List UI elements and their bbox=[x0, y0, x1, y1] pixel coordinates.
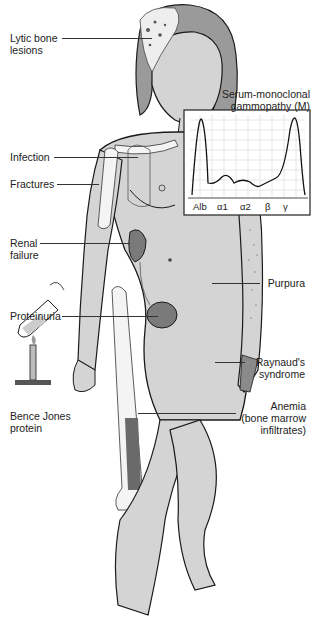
label-raynauds-syndrome: Raynaud's syndrome bbox=[230, 356, 305, 380]
axis-label-alb: Alb bbox=[193, 201, 207, 213]
myeloma-diagram: Serum-monoclonal gammopathy (M) Alb α1 α… bbox=[0, 0, 316, 627]
axis-label-beta: β bbox=[265, 201, 270, 213]
leader-anemia bbox=[138, 413, 236, 414]
left-leg bbox=[170, 420, 216, 590]
label-proteinuria: Proteinuria bbox=[10, 310, 61, 322]
label-bence-jones-protein: Bence Jones protein bbox=[10, 410, 71, 434]
serum-electrophoresis-chart bbox=[184, 110, 310, 215]
label-renal-failure: Renal failure bbox=[10, 237, 39, 261]
chart-title: Serum-monoclonal gammopathy (M) bbox=[200, 88, 310, 112]
label-infection: Infection bbox=[10, 151, 50, 163]
label-fractures: Fractures bbox=[10, 178, 54, 190]
leader-fractures bbox=[57, 184, 99, 185]
bladder bbox=[147, 302, 177, 328]
leader-lytic bbox=[62, 38, 152, 39]
axis-label-alpha2: α2 bbox=[240, 201, 251, 213]
leader-proteinuria bbox=[62, 316, 158, 317]
leader-purpura bbox=[212, 283, 260, 284]
leader-raynaud bbox=[215, 362, 245, 363]
leader-renal bbox=[40, 243, 130, 244]
label-anemia: Anemia (bone marrow infiltrates) bbox=[230, 400, 306, 436]
axis-label-alpha1: α1 bbox=[217, 201, 228, 213]
test-tube-burner bbox=[15, 282, 64, 385]
label-lytic-bone-lesions: Lytic bone lesions bbox=[10, 32, 57, 56]
axis-label-gamma: γ bbox=[283, 201, 288, 213]
leader-infection bbox=[54, 157, 138, 158]
